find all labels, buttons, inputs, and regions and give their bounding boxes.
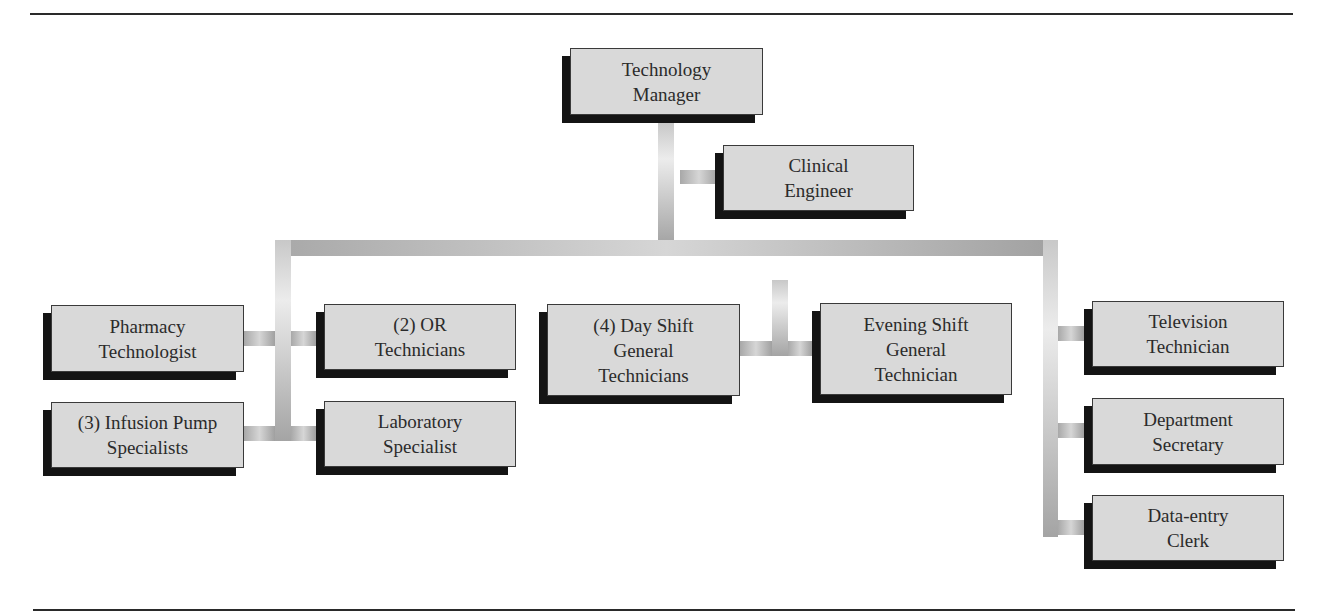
node-data-entry-clerk: Data-entry Clerk <box>1092 495 1284 561</box>
node-pharmacy-technologist: Pharmacy Technologist <box>51 305 244 372</box>
connector-secretary <box>1058 423 1084 438</box>
bottom-rule <box>33 609 1295 611</box>
node-television-technician: Television Technician <box>1092 301 1284 367</box>
node-label: Television Technician <box>1146 309 1229 359</box>
connector-data-entry <box>1058 520 1084 535</box>
connector-clinical-engineer <box>680 170 718 184</box>
node-day-shift-technicians: (4) Day Shift General Technicians <box>547 304 740 396</box>
node-label: (3) Infusion Pump Specialists <box>78 410 217 460</box>
node-label: (2) OR Technicians <box>375 312 465 362</box>
node-label: Laboratory Specialist <box>378 409 462 459</box>
connector-infusion <box>244 426 275 441</box>
node-label: (4) Day Shift General Technicians <box>593 313 693 388</box>
node-label: Clinical Engineer <box>784 153 853 203</box>
top-rule <box>30 13 1293 15</box>
node-or-technicians: (2) OR Technicians <box>324 304 516 370</box>
node-label: Department Secretary <box>1143 407 1233 457</box>
node-label: Pharmacy Technologist <box>99 314 197 364</box>
connector-day-shift <box>740 341 772 356</box>
connector-right-vertical <box>1043 240 1058 537</box>
connector-manager-trunk <box>658 123 674 243</box>
connector-or <box>291 331 316 346</box>
connector-pharmacy <box>244 331 275 346</box>
connector-middle-vertical <box>772 280 788 356</box>
connector-laboratory <box>291 426 316 441</box>
connector-evening-shift <box>788 341 812 356</box>
connector-television <box>1058 326 1084 341</box>
node-department-secretary: Department Secretary <box>1092 398 1284 465</box>
node-infusion-pump-specialists: (3) Infusion Pump Specialists <box>51 402 244 468</box>
node-evening-shift-technician: Evening Shift General Technician <box>820 303 1012 395</box>
node-label: Evening Shift General Technician <box>863 312 968 387</box>
node-laboratory-specialist: Laboratory Specialist <box>324 401 516 467</box>
connector-left-vertical <box>275 240 291 441</box>
node-label: Data-entry Clerk <box>1147 503 1228 553</box>
node-label: Technology Manager <box>622 57 711 107</box>
node-clinical-engineer: Clinical Engineer <box>723 145 914 211</box>
node-technology-manager: Technology Manager <box>570 48 763 115</box>
connector-main-horizontal <box>275 240 1058 256</box>
